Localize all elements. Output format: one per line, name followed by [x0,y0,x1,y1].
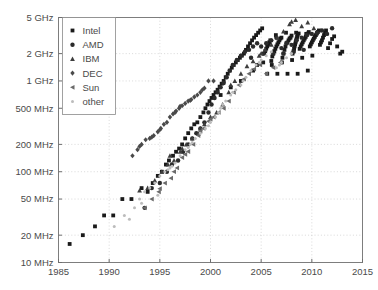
data-point [335,45,339,49]
data-point [187,146,190,149]
data-point [320,28,324,32]
data-point [215,90,219,94]
y-tick-label: 500 MHz [15,103,53,114]
data-point [340,50,344,54]
data-point [206,103,210,107]
data-point [228,83,233,88]
data-point [209,121,212,124]
data-point [224,100,227,103]
data-point [281,51,285,55]
x-tick-label: 2015 [352,266,373,277]
data-point [93,224,97,228]
x-tick-label: 2005 [251,266,272,277]
data-point [290,52,293,55]
data-point [156,194,159,197]
legend-label-sun: Sun [83,82,100,93]
data-point [189,127,193,131]
data-point [168,114,172,119]
data-point [245,64,250,68]
data-point [167,159,171,163]
data-point [294,38,298,42]
series-dec [130,78,215,158]
data-point [300,56,304,60]
data-point [180,142,184,146]
data-point [280,36,284,40]
data-point [258,61,261,64]
data-point [315,31,319,35]
data-point [270,63,274,67]
data-point [239,53,243,57]
data-point [199,132,202,135]
data-point [204,127,207,130]
data-point [214,116,217,119]
data-point [286,72,290,76]
data-point [179,154,182,157]
data-point [128,218,131,221]
data-point [296,72,300,76]
data-point [247,71,252,76]
data-point [176,158,180,162]
data-point [332,34,336,38]
legend-label-amd: AMD [83,39,104,50]
data-point [219,107,222,110]
y-tick-label: 5 GHz [27,12,54,23]
data-point [146,190,150,194]
data-point [260,26,264,30]
data-point [310,54,314,58]
data-point [143,137,147,142]
data-point [289,43,293,47]
y-tick-label: 2 GHz [27,48,54,59]
data-point [186,131,190,135]
data-point [243,49,247,53]
cpu-clock-speed-scatter-chart: 198519901995200020052010201510 MHz20 MHz… [0,0,378,290]
legend-marker-other [71,100,74,103]
series-other [113,50,293,228]
data-point [166,168,169,171]
data-point [251,44,255,48]
data-point [140,202,143,205]
data-point [275,66,278,69]
data-point [184,148,187,151]
data-point [206,78,210,83]
data-point [133,206,136,209]
legend-marker-amd [70,43,74,47]
data-point [138,198,141,201]
data-point [218,85,222,89]
data-point [260,59,263,62]
data-point [231,63,235,67]
data-point [281,56,285,60]
data-point [290,34,294,38]
data-point [249,56,253,60]
data-point [191,141,194,144]
data-point [302,48,306,52]
data-point [328,41,332,45]
data-point [293,17,298,22]
data-point [68,242,72,246]
legend-layer: IntelAMDIBMDECSunother [63,18,116,115]
data-point [221,81,225,85]
data-point [120,197,124,201]
data-point [305,33,309,37]
data-point [204,106,208,110]
data-point [239,84,242,87]
data-point [174,161,177,164]
data-point [264,41,268,45]
data-point [269,59,273,63]
data-point [269,38,273,42]
data-point [158,181,162,185]
data-point [289,19,294,24]
data-point [211,78,215,83]
data-point [175,166,180,171]
data-point [326,46,330,50]
legend-label-intel: Intel [83,25,101,36]
x-tick-label: 1995 [149,266,170,277]
data-point [255,63,258,66]
legend-label-ibm: IBM [83,53,100,64]
data-point [143,190,146,193]
data-point [149,197,154,202]
data-point [221,103,224,106]
data-point [168,176,173,181]
data-point [130,197,134,201]
data-point [163,170,166,173]
data-point [232,78,237,83]
